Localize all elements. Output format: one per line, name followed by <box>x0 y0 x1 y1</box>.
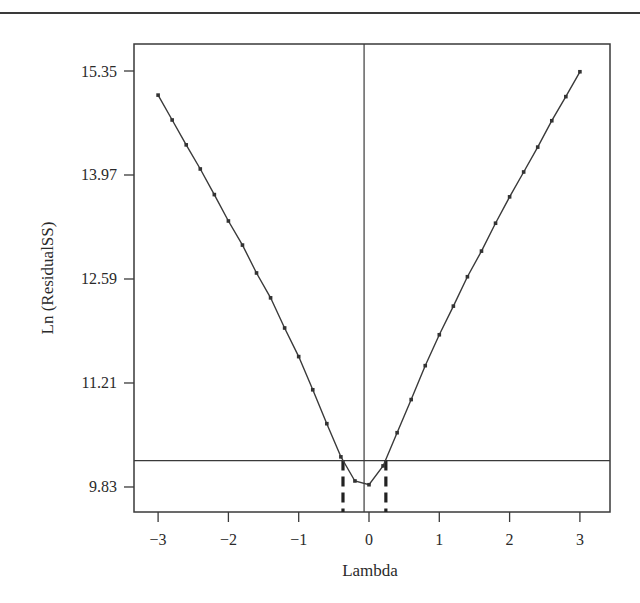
plot-frame <box>134 44 610 512</box>
y-tick-label: 9.83 <box>89 478 117 495</box>
data-point <box>564 95 568 99</box>
data-point <box>381 464 385 468</box>
data-point <box>409 398 413 402</box>
data-point <box>522 170 526 174</box>
data-point <box>438 333 442 337</box>
reference-lines <box>134 44 610 512</box>
x-tick-label: −3 <box>150 531 167 548</box>
y-tick-label: 12.59 <box>81 270 117 287</box>
data-point <box>339 455 343 459</box>
y-tick-label: 11.21 <box>82 374 117 391</box>
x-tick-label: −2 <box>220 531 237 548</box>
series-line <box>158 72 580 485</box>
data-point <box>367 483 371 487</box>
data-point <box>325 422 329 426</box>
data-point <box>241 243 245 247</box>
data-series <box>156 70 581 487</box>
y-axis: 15.3513.9712.5911.219.83 <box>81 63 134 496</box>
data-point <box>184 143 188 147</box>
data-point <box>480 249 484 253</box>
x-tick-label: −1 <box>290 531 307 548</box>
data-point <box>269 296 273 300</box>
data-point <box>395 431 399 435</box>
data-point <box>170 118 174 122</box>
data-point <box>536 145 540 149</box>
x-tick-label: 0 <box>365 531 373 548</box>
data-point <box>297 355 301 359</box>
data-point <box>227 219 231 223</box>
data-point <box>423 364 427 368</box>
data-point <box>550 119 554 123</box>
data-point <box>494 221 498 225</box>
data-point <box>578 70 582 74</box>
data-point <box>156 93 160 97</box>
data-point <box>452 304 456 308</box>
x-axis: −3−2−10123 <box>150 512 584 548</box>
x-axis-title: Lambda <box>342 561 398 580</box>
data-point <box>213 193 217 197</box>
data-point <box>198 167 202 171</box>
y-tick-label: 15.35 <box>81 63 117 80</box>
boxcox-chart: 15.3513.9712.5911.219.83 −3−2−10123 Lamb… <box>0 0 640 603</box>
x-tick-label: 1 <box>435 531 443 548</box>
data-point <box>508 195 512 199</box>
y-axis-title: Ln (ResidualSS) <box>38 222 57 335</box>
data-point <box>283 326 287 330</box>
data-point <box>353 479 357 483</box>
x-tick-label: 2 <box>506 531 514 548</box>
data-point <box>466 275 470 279</box>
data-point <box>255 271 259 275</box>
x-tick-label: 3 <box>576 531 584 548</box>
y-tick-label: 13.97 <box>81 166 117 183</box>
data-point <box>311 388 315 392</box>
